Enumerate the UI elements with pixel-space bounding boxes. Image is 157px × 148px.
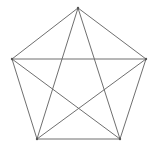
side-edge-right-to-bottom-right: [120, 59, 146, 139]
vertex-bottom-left: [36, 138, 38, 140]
pentagon-diagram: [0, 0, 157, 148]
vertex-bottom-right: [119, 138, 121, 140]
diagonal-edge-top-to-bottom-left: [37, 8, 78, 139]
vertex-top: [77, 7, 79, 9]
edge-group: [12, 8, 146, 139]
side-edge-top-to-right: [78, 8, 146, 59]
diagonal-edge-top-to-bottom-right: [78, 8, 120, 139]
vertex-left: [11, 58, 13, 60]
side-edge-bottom-left-to-left: [12, 59, 37, 139]
vertex-right: [145, 58, 147, 60]
side-edge-left-to-top: [12, 8, 78, 59]
diagonal-edge-bottom-right-to-left: [12, 59, 120, 139]
diagonal-edge-right-to-bottom-left: [37, 59, 146, 139]
